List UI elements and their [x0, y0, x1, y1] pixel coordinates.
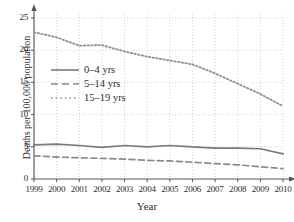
y-axis-label: Deaths per 100,000 population: [21, 18, 32, 178]
x-axis-arrow: [289, 176, 294, 181]
legend-swatch-dashed: [50, 79, 80, 89]
series-line-1: [34, 156, 283, 169]
x-tick-label: 2008: [227, 184, 249, 194]
x-tick-label: 2002: [91, 184, 113, 194]
x-tick-label: 2006: [181, 184, 203, 194]
x-tick-label: 1999: [23, 184, 45, 194]
x-tick-label: 2001: [68, 184, 90, 194]
x-tick-label: 2000: [46, 184, 68, 194]
x-tick-label: 2005: [159, 184, 181, 194]
x-tick-label: 2003: [114, 184, 136, 194]
x-tick-label: 2009: [249, 184, 271, 194]
legend-item-5-14: 5–14 yrs: [50, 77, 126, 90]
legend-item-0-4: 0–4 yrs: [50, 63, 126, 76]
legend-swatch-solid: [50, 65, 80, 75]
legend: 0–4 yrs 5–14 yrs 15–19 yrs: [50, 63, 126, 104]
x-tick-label: 2004: [136, 184, 158, 194]
legend-label-5-14: 5–14 yrs: [84, 78, 120, 89]
x-tick-label: 2010: [272, 184, 294, 194]
x-axis-label: Year: [0, 200, 294, 212]
legend-item-15-19: 15–19 yrs: [50, 91, 126, 104]
legend-label-15-19: 15–19 yrs: [84, 92, 126, 103]
legend-label-0-4: 0–4 yrs: [84, 64, 115, 75]
series-line-0: [34, 144, 283, 154]
x-tick-label: 2007: [204, 184, 226, 194]
legend-swatch-dotted: [50, 93, 80, 103]
y-axis-arrow: [31, 4, 36, 11]
line-chart: 0510152025 19992000200120022003200420052…: [0, 0, 294, 222]
